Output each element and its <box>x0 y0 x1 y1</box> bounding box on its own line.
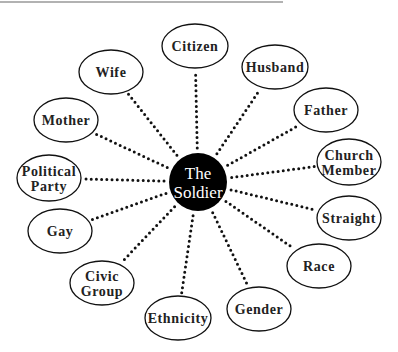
center-label: The <box>185 164 211 183</box>
node-label: Member <box>322 163 377 178</box>
node-race: Race <box>287 244 351 288</box>
node-husband: Husband <box>242 45 308 89</box>
node-civic-group: CivicGroup <box>70 261 134 305</box>
node-father: Father <box>294 88 358 132</box>
connector-race <box>226 201 294 248</box>
node-label: Citizen <box>172 39 219 54</box>
center-node: TheSoldier <box>169 153 227 211</box>
node-label: Husband <box>246 60 305 75</box>
node-wife: Wife <box>79 50 143 94</box>
node-label: Group <box>81 284 123 299</box>
node-gender: Gender <box>227 287 291 331</box>
connector-straight <box>231 190 316 210</box>
node-label: Mother <box>42 113 91 128</box>
node-straight: Straight <box>317 196 381 240</box>
node-label: Civic <box>85 269 119 284</box>
node-label: Straight <box>322 211 376 226</box>
connector-political-party <box>84 179 164 181</box>
connector-civic-group <box>122 207 175 263</box>
connector-citizen <box>196 71 198 148</box>
connector-gay <box>91 193 166 220</box>
node-label: Gender <box>235 302 284 317</box>
node-label: Ethnicity <box>148 311 209 326</box>
node-label: Race <box>303 259 335 274</box>
node-label: Church <box>324 148 373 163</box>
node-label: Father <box>304 103 348 118</box>
connector-ethnicity <box>182 216 193 293</box>
node-church-member: ChurchMember <box>317 139 381 185</box>
node-mother: Mother <box>34 98 98 142</box>
node-label: Political <box>22 164 76 179</box>
connector-husband <box>217 90 260 154</box>
connector-gender <box>213 213 248 286</box>
connector-father <box>228 125 299 165</box>
node-ethnicity: Ethnicity <box>145 296 211 340</box>
center-label: Soldier <box>173 183 222 202</box>
node-label: Wife <box>96 65 127 80</box>
node-label: Party <box>31 179 67 194</box>
connector-wife <box>128 94 177 156</box>
connector-mother <box>95 134 167 168</box>
node-gay: Gay <box>28 209 92 253</box>
soldier-identity-diagram: CitizenWifeHusbandMotherFatherPoliticalP… <box>0 0 398 352</box>
connector-church-member <box>232 167 315 178</box>
node-citizen: Citizen <box>162 24 228 68</box>
node-label: Gay <box>47 224 74 239</box>
node-political-party: PoliticalParty <box>17 155 81 201</box>
